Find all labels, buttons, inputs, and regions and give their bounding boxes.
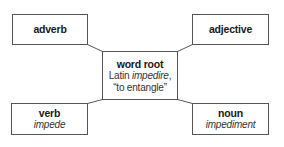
node-adjective-label: adjective [209,23,252,35]
word-root-origin: Latin impedire, [109,70,172,82]
connector-adverb [88,45,103,52]
word-root-label: word root [117,58,164,70]
node-word-root: word root Latin impedire, “to entangle” [102,51,178,100]
node-adverb: adverb [12,14,88,45]
connector-adjective [178,45,193,52]
word-root-meaning: “to entangle” [113,82,167,94]
node-verb-label: verb [39,107,60,119]
node-adjective: adjective [192,14,269,45]
word-root-latin-word: impedire [132,70,169,81]
word-root-origin-suffix: , [169,70,172,81]
node-verb-example: impede [34,119,66,131]
node-noun-label: noun [218,107,243,119]
node-verb: verb impede [11,103,88,135]
node-noun: noun impediment [192,103,269,135]
node-adverb-label: adverb [33,23,66,35]
connector-noun [178,100,193,104]
node-noun-example: impediment [206,119,256,131]
connector-verb [88,100,103,104]
word-root-origin-prefix: Latin [109,70,132,81]
